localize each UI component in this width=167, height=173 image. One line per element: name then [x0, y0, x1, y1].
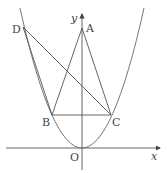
- parabola-triangle-diagram: y x A B C D O: [0, 0, 167, 173]
- point-label-C: C: [112, 116, 120, 129]
- point-label-A: A: [85, 22, 95, 35]
- segment-DB: [23, 27, 52, 115]
- point-label-B: B: [42, 116, 50, 129]
- diagram-svg: y x A B C D O: [0, 0, 167, 173]
- origin-label-O: O: [70, 151, 79, 164]
- segment-AC: [82, 28, 111, 115]
- x-axis-label: x: [151, 150, 158, 163]
- y-axis-label: y: [70, 12, 78, 25]
- point-label-D: D: [12, 23, 21, 36]
